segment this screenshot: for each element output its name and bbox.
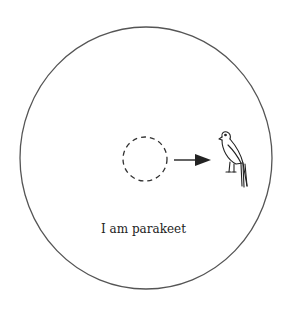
diagram-canvas <box>0 0 287 310</box>
arrow <box>174 154 211 166</box>
arrow-head <box>195 154 211 166</box>
outer-circle <box>20 27 272 289</box>
dashed-circle <box>123 137 167 181</box>
caption-text: I am parakeet <box>0 222 287 236</box>
parakeet-icon <box>219 132 247 187</box>
